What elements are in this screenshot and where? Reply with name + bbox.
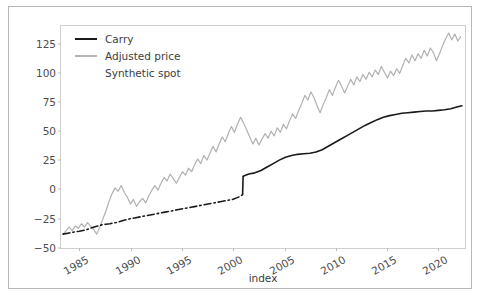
y-axis-tick-label: 25 <box>43 155 56 166</box>
x-axis-tick-mark <box>438 248 439 251</box>
legend-line-swatch <box>75 38 97 40</box>
y-axis-tick-label: 100 <box>36 67 56 78</box>
x-axis-tick-mark <box>336 248 337 251</box>
y-axis-tick-mark <box>58 218 61 219</box>
y-axis-tick-label: 125 <box>36 38 56 49</box>
legend-item[interactable]: Adjusted price <box>75 49 181 63</box>
y-axis-tick-mark <box>58 160 61 161</box>
y-axis-tick-mark <box>58 43 61 44</box>
chart-series-line <box>243 106 462 177</box>
x-axis-tick-mark <box>285 248 286 251</box>
y-axis-tick-mark <box>58 189 61 190</box>
y-axis-tick-label: 50 <box>43 126 56 137</box>
x-axis-tick-mark <box>131 248 132 251</box>
figure-outer-frame: −50−250255075100125 19851990199520002005… <box>8 6 472 289</box>
x-axis-tick-mark <box>233 248 234 251</box>
y-axis-tick-label: −25 <box>34 213 56 224</box>
legend-item[interactable]: Synthetic spot <box>75 66 181 80</box>
x-axis-tick-mark <box>79 248 80 251</box>
y-axis-tick-mark <box>58 101 61 102</box>
y-axis-tick-mark <box>58 131 61 132</box>
legend-item-label: Adjusted price <box>105 51 180 62</box>
x-axis-tick-mark <box>387 248 388 251</box>
chart-series-line <box>243 176 244 194</box>
y-axis-tick-label: 0 <box>49 184 56 195</box>
legend-line-swatch <box>75 55 97 56</box>
y-axis-tick-mark <box>58 72 61 73</box>
figure-canvas: −50−250255075100125 19851990199520002005… <box>0 0 480 295</box>
legend-line-swatch <box>75 72 97 73</box>
x-axis-label: index <box>60 272 466 284</box>
chart-series-line <box>63 195 243 234</box>
y-axis-tick-mark <box>58 247 61 248</box>
legend-item-label: Synthetic spot <box>105 68 181 79</box>
legend-item[interactable]: Carry <box>75 32 181 46</box>
legend-item-label: Carry <box>105 34 133 45</box>
y-axis-tick-label: 75 <box>43 97 56 108</box>
x-axis-tick-mark <box>182 248 183 251</box>
y-axis-tick-label: −50 <box>34 242 56 253</box>
chart-legend: CarryAdjusted priceSynthetic spot <box>75 32 181 80</box>
